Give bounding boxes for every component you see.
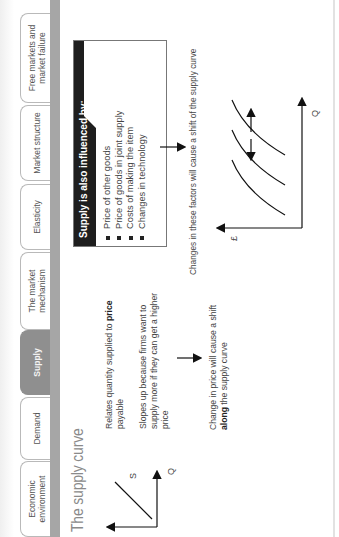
supply-shift-graph (0, 0, 339, 537)
supply-curve-right (232, 100, 285, 155)
rotated-page: Economic environment Demand Supply The m… (0, 0, 339, 537)
page-edge (333, 0, 335, 537)
shift-graph-price-label: £ (229, 236, 239, 241)
shift-graph-q-label: Q (310, 110, 320, 117)
supply-curve-middle (232, 130, 285, 185)
supply-curve-left (232, 160, 285, 215)
